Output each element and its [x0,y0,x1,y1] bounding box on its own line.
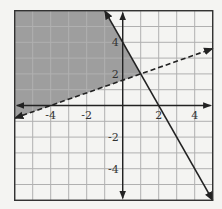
x-tick-label: -2 [81,109,92,122]
y-tick-label: -2 [108,131,119,144]
x-tick-label: 2 [155,109,162,122]
x-tick-label: -4 [45,109,56,122]
y-tick-label: 2 [112,68,119,81]
y-tick-label: -4 [108,163,119,176]
inequality-graph: -4-22442-2-4 [0,0,222,209]
y-tick-label: 4 [112,36,119,49]
x-tick-label: 4 [191,109,198,122]
